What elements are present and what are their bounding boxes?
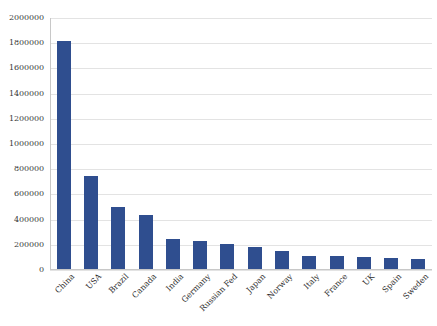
bar-chart: 0200000400000600000800000100000012000001… (0, 0, 437, 326)
bar (139, 215, 153, 269)
x-axis: ChinaUSABrazilCanadaIndiaGermanyRussian … (50, 272, 432, 326)
y-axis-tick-label: 1200000 (0, 115, 44, 123)
bar (384, 258, 398, 269)
y-axis-tick-label: 1800000 (0, 39, 44, 47)
bar (330, 256, 344, 269)
bar (248, 247, 262, 269)
y-axis: 0200000400000600000800000100000012000001… (0, 0, 48, 326)
bar (411, 259, 425, 269)
bar (166, 239, 180, 269)
y-axis-tick-label: 800000 (0, 165, 44, 173)
plot-area (50, 18, 432, 270)
bar (357, 257, 371, 269)
bar (84, 176, 98, 269)
bar (302, 256, 316, 269)
gridline (50, 270, 432, 271)
y-axis-tick-label: 2000000 (0, 14, 44, 22)
y-axis-tick-label: 0 (0, 266, 44, 274)
y-axis-tick-label: 200000 (0, 241, 44, 249)
y-axis-tick-label: 1000000 (0, 140, 44, 148)
y-axis-tick-label: 1400000 (0, 90, 44, 98)
bar (275, 251, 289, 269)
y-axis-tick-label: 1600000 (0, 64, 44, 72)
bar (111, 207, 125, 269)
bar (193, 241, 207, 269)
bar (57, 41, 71, 269)
y-axis-tick-label: 600000 (0, 190, 44, 198)
bar-series (50, 18, 432, 270)
y-axis-tick-label: 400000 (0, 216, 44, 224)
bar (220, 244, 234, 269)
